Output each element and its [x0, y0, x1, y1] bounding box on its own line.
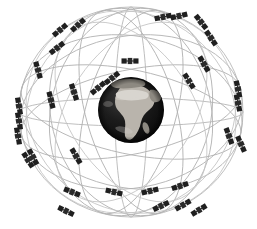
solar-panel-right-icon — [75, 158, 82, 165]
earth-limb-shadow — [98, 77, 164, 143]
solar-panel-right-icon — [68, 210, 75, 217]
solar-panel-left-icon — [204, 29, 211, 36]
satellite-icon — [193, 13, 208, 30]
satellite-bus-icon — [176, 12, 182, 19]
satellite-icon — [223, 127, 235, 145]
solar-panel-left-icon — [57, 205, 64, 212]
satellite-icon — [235, 135, 248, 153]
satellite-bus-icon — [34, 67, 41, 73]
satellite-constellation-figure — [0, 0, 257, 229]
satellite-icon — [122, 58, 139, 64]
earth-surface — [98, 77, 164, 143]
solar-panel-left-icon — [152, 205, 159, 212]
satellite-icon — [33, 61, 44, 79]
satellite-bus-icon — [225, 133, 232, 139]
solar-panel-right-icon — [240, 146, 247, 153]
solar-panel-left-icon — [33, 61, 39, 67]
satellite-bus-icon — [128, 58, 133, 64]
solar-panel-left-icon — [69, 83, 76, 90]
solar-panel-left-icon — [224, 127, 231, 134]
satellite-bus-icon — [147, 187, 153, 194]
satellite-icon — [48, 40, 65, 55]
satellite-bus-icon — [70, 89, 77, 95]
satellite-icon — [141, 186, 159, 196]
earth-globe — [98, 77, 164, 143]
satellite-bus-icon — [15, 133, 22, 139]
satellite-icon — [51, 22, 68, 38]
solar-panel-right-icon — [36, 72, 42, 78]
satellite-icon — [154, 12, 172, 22]
satellite-icon — [57, 204, 75, 217]
satellite-bus-icon — [234, 100, 241, 106]
satellite-icon — [204, 29, 219, 47]
solar-panel-left-icon — [235, 135, 242, 142]
satellite-icon — [69, 147, 83, 165]
satellite-icon — [170, 11, 188, 21]
solar-panel-left-icon — [69, 147, 76, 154]
satellite-icon — [68, 83, 79, 101]
satellite-icon — [171, 180, 189, 191]
satellite-icon — [190, 203, 208, 217]
satellite-icon — [46, 91, 56, 109]
satellite-icon — [197, 55, 211, 73]
solar-panel-right-icon — [185, 198, 192, 205]
solar-panel-left-icon — [190, 210, 197, 217]
satellite-bus-icon — [160, 13, 166, 20]
solar-panel-right-icon — [200, 203, 207, 210]
constellation-canvas — [0, 0, 257, 229]
satellite-bus-icon — [16, 118, 23, 124]
solar-panel-left-icon — [197, 55, 204, 62]
